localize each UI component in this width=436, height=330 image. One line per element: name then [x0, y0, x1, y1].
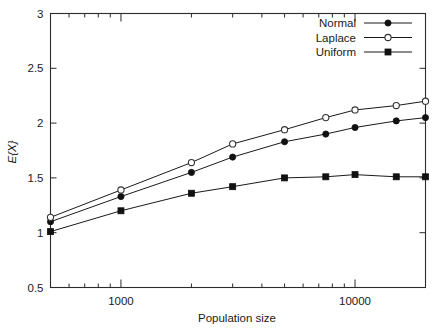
y-tick-label: 3: [37, 8, 43, 20]
data-point-laplace-6: [352, 107, 358, 113]
data-point-normal-3: [230, 154, 236, 160]
data-point-laplace-3: [230, 141, 236, 147]
data-point-normal-4: [281, 139, 287, 145]
legend-label: Uniform: [316, 46, 356, 58]
data-point-uniform-6: [352, 172, 358, 178]
y-tick-label: 0.5: [28, 282, 44, 294]
data-point-uniform-3: [230, 184, 236, 190]
data-point-laplace-5: [323, 115, 329, 121]
legend-marker: [385, 34, 391, 40]
x-axis-title: Population size: [198, 312, 276, 324]
x-tick-label: 1000: [108, 295, 134, 307]
data-point-uniform-7: [393, 174, 399, 180]
legend-label: Laplace: [316, 32, 356, 44]
data-point-laplace-1: [118, 187, 124, 193]
data-point-laplace-8: [422, 98, 428, 104]
y-tick-label: 2.5: [28, 62, 44, 74]
data-point-uniform-5: [323, 174, 329, 180]
x-tick-label: 10000: [339, 295, 371, 307]
data-point-normal-2: [188, 169, 194, 175]
data-point-uniform-4: [282, 175, 288, 181]
legend-marker: [385, 20, 391, 26]
data-point-normal-7: [393, 118, 399, 124]
data-point-laplace-2: [188, 159, 194, 165]
legend-marker: [385, 49, 391, 55]
data-point-uniform-2: [188, 190, 194, 196]
y-tick-label: 1: [37, 227, 43, 239]
y-axis-title: E{X}: [6, 140, 18, 163]
plot-canvas: 32.521.510.5 100010000 Population size E…: [0, 0, 436, 330]
data-point-uniform-0: [48, 229, 54, 235]
data-point-laplace-4: [281, 127, 287, 133]
data-point-normal-1: [118, 193, 124, 199]
data-point-normal-8: [422, 115, 428, 121]
y-tick-label: 1.5: [28, 172, 44, 184]
chart-figure: 32.521.510.5 100010000 Population size E…: [0, 0, 436, 330]
data-point-laplace-7: [393, 102, 399, 108]
data-point-uniform-8: [423, 174, 429, 180]
data-point-laplace-0: [47, 214, 53, 220]
figure-background: [0, 0, 436, 330]
y-tick-label: 2: [37, 117, 43, 129]
data-point-normal-6: [352, 124, 358, 130]
data-point-uniform-1: [118, 208, 124, 214]
legend-label: Normal: [319, 17, 356, 29]
data-point-normal-5: [323, 131, 329, 137]
